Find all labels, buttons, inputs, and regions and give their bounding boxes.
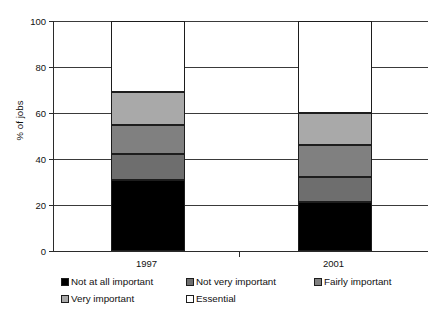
bar-segment — [111, 180, 185, 251]
stacked-bar-chart: % of jobs 020406080100 19972001 Not at a… — [0, 0, 445, 323]
y-tick-mark-60 — [49, 113, 54, 114]
bar-segment — [298, 21, 372, 113]
legend-swatch-icon — [314, 278, 322, 286]
bar-2001 — [298, 21, 372, 251]
legend-swatch-icon — [186, 278, 194, 286]
y-tick-label-60: 60 — [35, 108, 46, 119]
bar-segment — [298, 177, 372, 201]
y-tick-mark-20 — [49, 205, 54, 206]
bar-1997 — [111, 21, 185, 251]
bar-segment — [111, 125, 185, 155]
legend-item[interactable]: Fairly important — [314, 276, 424, 287]
legend-item[interactable]: Not at all important — [61, 276, 186, 287]
legend-label: Fairly important — [324, 276, 392, 287]
legend-label: Essential — [196, 293, 236, 304]
legend-item[interactable]: Very important — [61, 293, 186, 304]
y-tick-label-40: 40 — [35, 154, 46, 165]
y-tick-label-0: 0 — [41, 246, 46, 257]
legend-row: Very importantEssential — [61, 290, 431, 307]
legend-swatch-icon — [61, 295, 69, 303]
y-tick-label-100: 100 — [30, 16, 46, 27]
legend-item[interactable]: Essential — [186, 293, 314, 304]
legend-label: Not very important — [196, 276, 276, 287]
x-axis-center-tick — [239, 252, 240, 257]
legend-swatch-icon — [186, 295, 194, 303]
legend-row: Not at all importantNot very importantFa… — [61, 273, 431, 290]
y-tick-mark-100 — [49, 21, 54, 22]
y-tick-mark-40 — [49, 159, 54, 160]
y-tick-label-80: 80 — [35, 62, 46, 73]
legend-label: Not at all important — [71, 276, 153, 287]
y-axis-title: % of jobs — [14, 86, 25, 156]
plot-area: 020406080100 — [53, 21, 428, 252]
x-axis-label-2001: 2001 — [274, 258, 394, 269]
bar-segment — [111, 92, 185, 124]
legend-swatch-icon — [61, 278, 69, 286]
bar-segment — [111, 154, 185, 179]
y-tick-mark-80 — [49, 67, 54, 68]
x-axis-label-1997: 1997 — [87, 258, 207, 269]
bar-segment — [298, 113, 372, 145]
y-tick-mark-0 — [49, 251, 54, 252]
bar-segment — [298, 145, 372, 177]
y-tick-label-20: 20 — [35, 200, 46, 211]
bar-segment — [111, 21, 185, 92]
legend-label: Very important — [71, 293, 134, 304]
legend-item[interactable]: Not very important — [186, 276, 314, 287]
bar-segment — [298, 202, 372, 251]
chart-legend: Not at all importantNot very importantFa… — [61, 273, 431, 307]
